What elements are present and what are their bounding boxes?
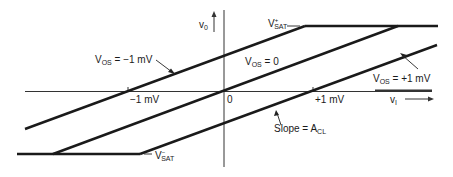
transfer-characteristic-diagram bbox=[0, 0, 453, 177]
vos-zero-v: V bbox=[245, 56, 252, 67]
vos-plus-value: = +1 mV bbox=[390, 73, 431, 84]
vos-zero-value: = 0 bbox=[262, 56, 279, 67]
y-axis-label-sub: 0 bbox=[204, 24, 208, 31]
y-axis-label: v0 bbox=[199, 20, 208, 31]
tick-label-minus-1mv: −1 mV bbox=[130, 95, 159, 105]
vos-plus-sub: OS bbox=[380, 78, 390, 85]
vos-plus-1mv-label: VOS = +1 mV bbox=[373, 74, 430, 85]
vos-minus-value: = −1 mV bbox=[112, 54, 153, 65]
vos-minus-sub: OS bbox=[102, 59, 112, 66]
x-axis-label: vI bbox=[390, 95, 397, 106]
slope-sub: CL bbox=[317, 128, 326, 135]
origin-label: 0 bbox=[227, 95, 233, 105]
vsat-negative-label: V−SAT bbox=[155, 149, 174, 162]
vsat-pos-sub: SAT bbox=[274, 23, 287, 30]
slope-text: Slope = A bbox=[274, 123, 317, 134]
x-arrow-head-icon bbox=[428, 97, 434, 102]
vos-minus-1mv-label: VOS = −1 mV bbox=[95, 55, 152, 66]
vos-0-label: VOS = 0 bbox=[245, 57, 279, 68]
vsat-positive-label: V+SAT bbox=[268, 17, 287, 30]
tick-label-plus-1mv: +1 mV bbox=[315, 95, 344, 105]
curve-vos-0 bbox=[53, 26, 398, 154]
vsat-neg-sub: SAT bbox=[161, 155, 174, 162]
y-arrow-head-icon bbox=[212, 11, 217, 17]
vos-minus-v: V bbox=[95, 54, 102, 65]
x-axis-label-sub: I bbox=[395, 99, 397, 106]
leader-slope-arrow-icon bbox=[274, 110, 279, 116]
vos-zero-sub: OS bbox=[252, 61, 262, 68]
vos-plus-v: V bbox=[373, 73, 380, 84]
curves bbox=[17, 26, 438, 154]
slope-label: Slope = ACL bbox=[274, 124, 326, 135]
